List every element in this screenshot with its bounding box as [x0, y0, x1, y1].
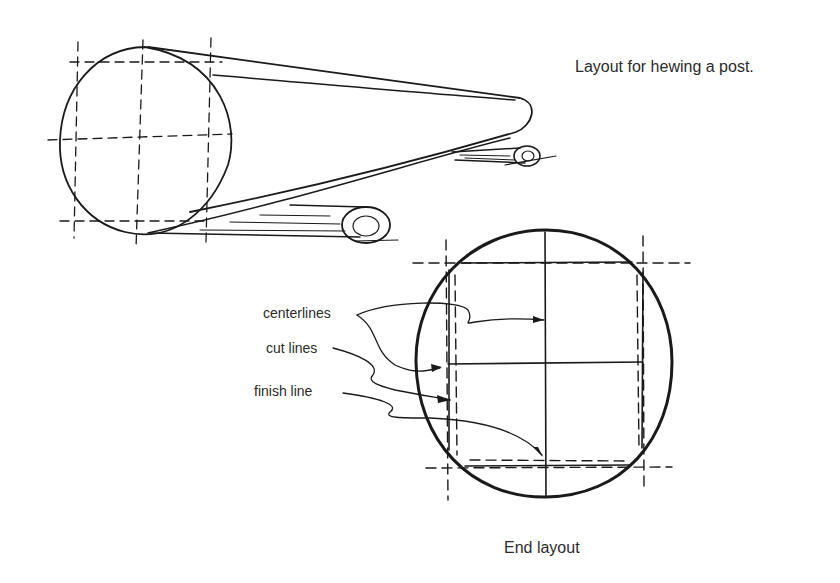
end-dashed-layout	[48, 38, 232, 248]
label-finish-line: finish line	[254, 383, 312, 399]
log-illustration	[48, 38, 556, 248]
end-layout-caption: End layout	[504, 539, 580, 557]
drawing	[0, 0, 840, 583]
diagram-title: Layout for hewing a post.	[575, 58, 754, 76]
leader-lines	[333, 303, 544, 457]
hewing-diagram: Layout for hewing a post. centerlines cu…	[0, 0, 840, 583]
end-layout-illustration	[413, 230, 690, 500]
label-centerlines: centerlines	[263, 305, 331, 321]
label-cut-lines: cut lines	[266, 340, 317, 356]
